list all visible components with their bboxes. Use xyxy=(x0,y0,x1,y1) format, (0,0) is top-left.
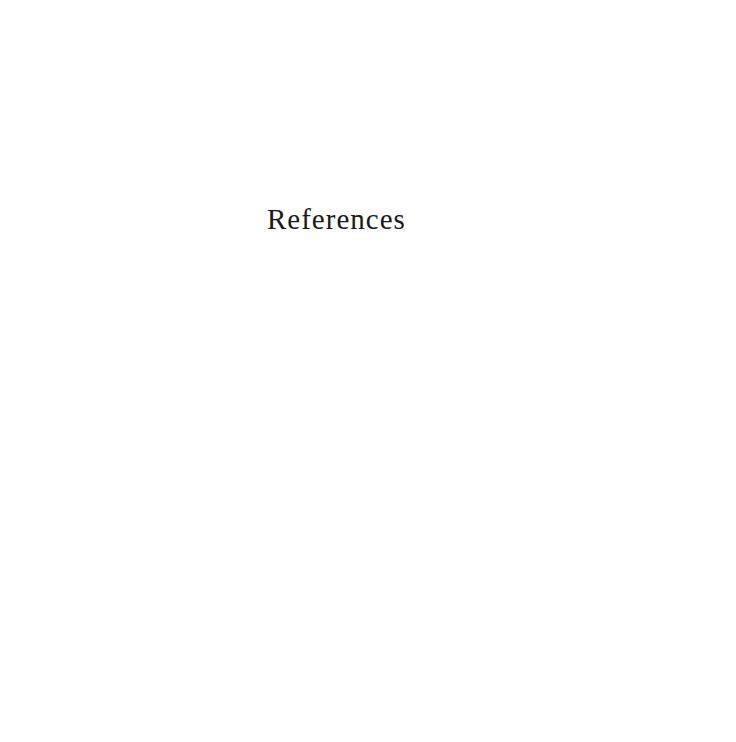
section-heading: References xyxy=(267,205,406,234)
document-page: References xyxy=(0,0,736,742)
